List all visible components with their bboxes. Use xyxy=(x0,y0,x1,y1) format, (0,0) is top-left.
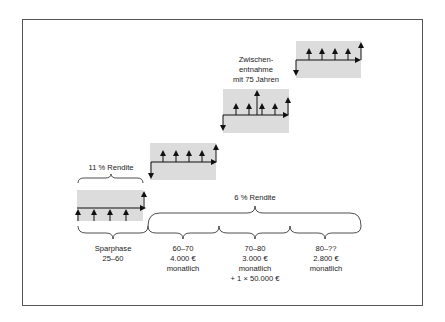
diagram-frame xyxy=(23,20,423,306)
label-interim-withdrawal-2: entnahme xyxy=(239,65,273,74)
phase-line: monatlich xyxy=(239,264,272,273)
brace-70-80 xyxy=(219,226,290,239)
retirement-cashflow-diagram: 11 % Rendite 6 % Rendite Zwischen- entna… xyxy=(0,0,445,322)
phase-label-80-plus: 80–?? 2.800 € monatlich xyxy=(310,244,343,273)
phase-label-sparphase: Sparphase 25–60 xyxy=(95,244,132,263)
phase-line: 80–?? xyxy=(315,244,336,253)
label-interim-withdrawal-1: Zwischen- xyxy=(239,55,274,64)
label-interim-withdrawal-3: mit 75 Jahren xyxy=(233,75,279,84)
block-sparphase xyxy=(75,190,147,221)
label-6-percent-return: 6 % Rendite xyxy=(234,193,275,202)
label-11-percent-return: 11 % Rendite xyxy=(88,163,133,172)
block-70-80 xyxy=(220,89,291,133)
brace-60-70 xyxy=(148,226,219,239)
phase-line: Sparphase xyxy=(95,244,132,253)
brace-11-percent xyxy=(78,174,143,183)
phase-line: 25–60 xyxy=(102,254,123,263)
phase-line: monatlich xyxy=(167,264,200,273)
brace-sparphase xyxy=(78,226,148,239)
phase-line: + 1 × 50.000 € xyxy=(231,274,281,283)
brace-80-plus xyxy=(290,226,361,239)
phase-line: monatlich xyxy=(310,264,343,273)
phase-label-60-70: 60–70 4.000 € monatlich xyxy=(167,244,200,273)
block-80-plus xyxy=(293,41,364,78)
brace-6-percent xyxy=(148,206,361,226)
phase-line: 60–70 xyxy=(172,244,193,253)
phase-line: 70–80 xyxy=(244,244,265,253)
phase-line: 4.000 € xyxy=(170,254,196,263)
block-60-70 xyxy=(148,143,219,180)
phase-label-70-80: 70–80 3.000 € monatlich + 1 × 50.000 € xyxy=(231,244,281,283)
phase-line: 3.000 € xyxy=(242,254,268,263)
phase-line: 2.800 € xyxy=(313,254,339,263)
